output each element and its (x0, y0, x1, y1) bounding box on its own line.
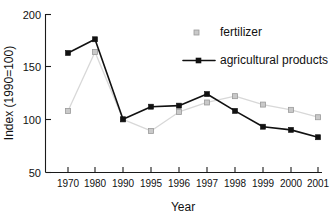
data-point-marker: agricultural products 1980: 176 (93, 37, 98, 42)
line-chart: 200 150 100 50 Index (1990=100) 1970 198… (0, 0, 330, 222)
data-point-marker: agricultural products 2000: 90 (289, 127, 294, 132)
data-point-marker: fertilizer 1995: 89 (149, 128, 154, 133)
x-tick-label-1997: 1997 (196, 178, 219, 189)
data-point-marker: fertilizer 1980: 164 (93, 49, 98, 54)
y-tick-label-150: 150 (23, 61, 41, 73)
legend-marker-agricultural-products (196, 58, 201, 63)
data-point-marker: fertilizer 1996: 107 (177, 109, 182, 114)
data-point-marker: fertilizer 1998: 122 (233, 94, 238, 99)
x-tick-label-1996: 1996 (168, 178, 191, 189)
data-point-marker: fertilizer 1997: 116 (205, 100, 210, 105)
legend-marker-fertilizer (194, 30, 199, 35)
x-axis-ticks (68, 167, 318, 173)
x-tick-label-1998: 1998 (224, 178, 247, 189)
data-point-marker: fertilizer 2001: 102 (316, 115, 321, 120)
chart-container: 200 150 100 50 Index (1990=100) 1970 198… (0, 0, 330, 222)
y-tick-label-200: 200 (23, 9, 41, 21)
legend-label-fertilizer: fertilizer (220, 25, 262, 39)
data-point-marker: agricultural products 1998: 108 (233, 108, 238, 113)
x-tick-label-1980: 1980 (84, 178, 107, 189)
x-tick-label-1995: 1995 (140, 178, 163, 189)
y-axis-title: Index (1990=100) (2, 46, 16, 140)
x-tick-label-2001: 2001 (307, 178, 330, 189)
data-point-marker: agricultural products 1999: 93 (261, 124, 266, 129)
data-point-marker: fertilizer 1970: 108 (66, 108, 71, 113)
x-tick-label-1970: 1970 (57, 178, 80, 189)
x-tick-label-1999: 1999 (252, 178, 275, 189)
y-tick-label-50: 50 (29, 167, 41, 179)
data-point-marker: agricultural products 1997: 124 (205, 92, 210, 97)
data-point-marker: agricultural products 2001: 83 (316, 135, 321, 140)
x-tick-label-1990: 1990 (112, 178, 135, 189)
data-point-marker: agricultural products 1995: 112 (149, 104, 154, 109)
data-point-marker: agricultural products 1996: 113 (177, 103, 182, 108)
x-tick-label-2000: 2000 (280, 178, 303, 189)
data-point-marker: fertilizer 1999: 114 (261, 102, 266, 107)
data-point-marker: fertilizer 2000: 109 (289, 107, 294, 112)
data-point-marker: agricultural products 1990: 100 (121, 117, 126, 122)
legend-label-agricultural-products: agricultural products (220, 53, 328, 67)
data-point-marker: agricultural products 1970: 163 (66, 50, 71, 55)
y-tick-label-100: 100 (23, 114, 41, 126)
chart-legend: fertilizer agricultural products (183, 25, 328, 67)
y-axis-ticks (46, 15, 52, 173)
x-axis-title: Year (171, 200, 195, 214)
